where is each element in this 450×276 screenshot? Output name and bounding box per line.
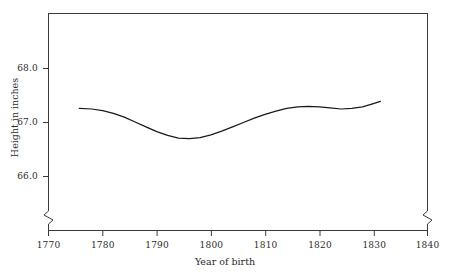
xtick-label-1800: 1800 — [191, 240, 231, 250]
y-axis-break-left-icon — [44, 211, 53, 230]
plot-area — [0, 0, 450, 276]
xtick-label-1810: 1810 — [246, 240, 286, 250]
xtick-label-1840: 1840 — [408, 240, 448, 250]
xtick-label-1830: 1830 — [354, 240, 394, 250]
chart-figure: 66.0 67.0 68.0 1770 1780 1790 1800 1810 … — [0, 0, 450, 276]
x-axis-ticks — [49, 231, 428, 237]
ytick-label-66: 66.0 — [0, 171, 38, 181]
y-axis-ticks — [43, 69, 49, 177]
height-trend-line — [79, 101, 380, 138]
y-axis-title: Height in inches — [9, 68, 20, 168]
xtick-label-1780: 1780 — [83, 240, 123, 250]
xtick-label-1790: 1790 — [137, 240, 177, 250]
xtick-label-1820: 1820 — [300, 240, 340, 250]
x-axis-title: Year of birth — [0, 256, 450, 267]
y-axis-break-right-icon — [423, 211, 432, 230]
xtick-label-1770: 1770 — [29, 240, 69, 250]
